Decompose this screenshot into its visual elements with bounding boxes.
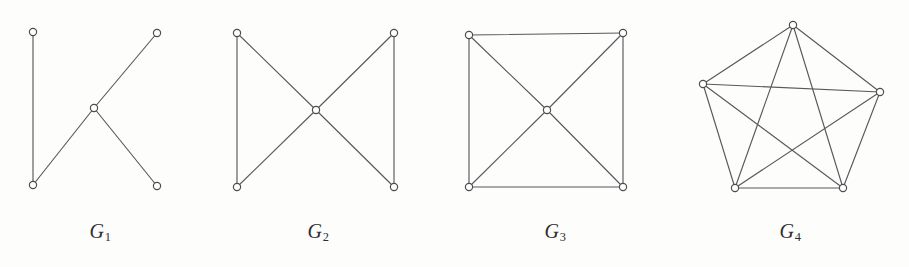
- graph-label-subscript: 1: [105, 230, 111, 244]
- graph-canvas: [0, 0, 909, 267]
- g4-node-bottom-left: [731, 184, 738, 191]
- g2-node-top-left: [233, 29, 240, 36]
- graph-g1: [29, 28, 160, 189]
- g1-node-top-right: [153, 29, 160, 36]
- graph-g4: [699, 21, 883, 191]
- graph-edge: [703, 84, 735, 188]
- graph-edge: [469, 35, 547, 110]
- graph-edge: [703, 84, 880, 92]
- graph-label-letter: G: [779, 220, 794, 242]
- graph-g2: [233, 29, 397, 190]
- graph-edge: [703, 25, 793, 84]
- g1-node-bottom-left: [29, 181, 36, 188]
- graph-edge: [703, 84, 843, 188]
- g2-node-bottom-right: [390, 183, 397, 190]
- graph-edge: [547, 110, 623, 187]
- g1-node-center: [90, 104, 97, 111]
- g3-node-center: [543, 106, 550, 113]
- graph-label-g1: G1: [89, 220, 110, 243]
- graph-edge: [843, 92, 880, 188]
- graph-edge: [33, 108, 94, 185]
- graph-label-letter: G: [89, 220, 104, 242]
- g3-node-top-right: [619, 29, 626, 36]
- graph-edge: [94, 108, 157, 186]
- graph-label-subscript: 4: [795, 230, 801, 244]
- g4-node-right: [876, 88, 883, 95]
- graph-g3: [465, 29, 626, 190]
- g2-node-center: [312, 106, 319, 113]
- g1-node-top-left: [29, 28, 36, 35]
- g4-node-top: [789, 21, 796, 28]
- graph-label-g4: G4: [779, 220, 800, 243]
- g4-node-left: [699, 80, 706, 87]
- graph-edge: [469, 33, 623, 35]
- graph-edge: [316, 33, 394, 110]
- graph-edge: [793, 25, 843, 188]
- graph-g4-edges: [703, 25, 880, 188]
- graph-edge: [469, 110, 547, 187]
- graph-label-subscript: 2: [323, 230, 329, 244]
- graph-edge: [793, 25, 880, 92]
- g3-node-bottom-right: [619, 183, 626, 190]
- g3-node-bottom-left: [465, 183, 472, 190]
- graph-edge: [237, 110, 316, 187]
- graph-g4-nodes: [699, 21, 883, 191]
- graph-label-letter: G: [307, 220, 322, 242]
- graph-edge: [547, 33, 623, 110]
- graph-label-g3: G3: [544, 220, 565, 243]
- graph-figure: G1G2G3G4: [0, 0, 909, 267]
- g4-node-bottom-right: [839, 184, 846, 191]
- graph-edge: [735, 25, 793, 188]
- graph-edge: [237, 33, 316, 110]
- graph-edge: [94, 33, 157, 108]
- graph-label-subscript: 3: [560, 230, 566, 244]
- graph-label-letter: G: [544, 220, 559, 242]
- g2-node-top-right: [390, 29, 397, 36]
- g2-node-bottom-left: [233, 183, 240, 190]
- g1-node-bottom-right: [153, 182, 160, 189]
- g3-node-top-left: [465, 31, 472, 38]
- graph-label-g2: G2: [307, 220, 328, 243]
- graph-edge: [735, 92, 880, 188]
- graph-edge: [316, 110, 394, 187]
